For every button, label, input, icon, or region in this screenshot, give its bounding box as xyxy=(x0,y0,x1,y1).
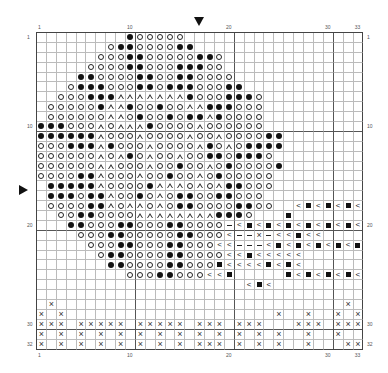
grid-cell xyxy=(314,73,324,83)
grid-cell xyxy=(274,73,284,83)
grid-cell xyxy=(264,211,274,221)
grid-cell xyxy=(116,251,126,261)
filled-circle-icon xyxy=(126,102,135,111)
open-circle-icon xyxy=(166,73,175,82)
grid-cell xyxy=(156,152,166,162)
open-circle-icon xyxy=(116,82,125,91)
grid-cell xyxy=(47,122,57,132)
grid-cell xyxy=(146,290,156,300)
grid-cell xyxy=(86,330,96,340)
filled-circle-icon xyxy=(116,43,125,52)
filled-square-icon xyxy=(344,201,353,210)
grid-cell xyxy=(96,211,106,221)
grid-cell xyxy=(146,152,156,162)
open-circle-icon xyxy=(156,43,165,52)
filled-circle-icon xyxy=(185,112,194,121)
grid-cell xyxy=(37,132,47,142)
grid-cell xyxy=(264,43,274,53)
open-circle-icon xyxy=(245,171,254,180)
open-circle-icon xyxy=(235,102,244,111)
open-circle-icon xyxy=(205,201,214,210)
grid-cell xyxy=(77,280,87,290)
grid-cell xyxy=(225,171,235,181)
open-circle-icon xyxy=(156,53,165,62)
open-triangle-icon xyxy=(96,122,105,131)
grid-cell xyxy=(126,142,136,152)
open-circle-icon xyxy=(225,122,234,131)
open-triangle-icon xyxy=(136,122,145,131)
open-circle-icon xyxy=(116,162,125,171)
grid-cell xyxy=(304,181,314,191)
grid-cell xyxy=(175,221,185,231)
open-circle-icon xyxy=(126,82,135,91)
cross-icon xyxy=(344,340,353,349)
grid-cell xyxy=(264,270,274,280)
open-circle-icon xyxy=(146,251,155,260)
grid-cell xyxy=(57,191,67,201)
open-triangle-icon xyxy=(156,92,165,101)
filled-square-icon xyxy=(255,280,264,289)
grid-cell xyxy=(67,340,77,350)
row-label-left: 30 xyxy=(27,321,33,327)
grid-cell xyxy=(156,340,166,350)
cross-icon xyxy=(354,320,363,329)
filled-circle-icon xyxy=(77,171,86,180)
grid-cell xyxy=(86,221,96,231)
filled-circle-icon xyxy=(67,132,76,141)
grid-cell xyxy=(304,142,314,152)
grid-cell xyxy=(77,300,87,310)
open-circle-icon xyxy=(215,63,224,72)
filled-circle-icon xyxy=(185,201,194,210)
grid-cell xyxy=(324,162,334,172)
less-than-icon xyxy=(334,270,343,279)
grid-cell xyxy=(166,63,176,73)
open-circle-icon xyxy=(245,102,254,111)
open-circle-icon xyxy=(166,122,175,131)
less-than-icon xyxy=(235,251,244,260)
grid-cell xyxy=(205,181,215,191)
open-circle-icon xyxy=(116,191,125,200)
grid-cell xyxy=(77,63,87,73)
grid-cell xyxy=(156,73,166,83)
grid-cell xyxy=(166,270,176,280)
grid-cell xyxy=(37,92,47,102)
open-triangle-icon xyxy=(205,162,214,171)
cross-icon xyxy=(175,320,184,329)
grid-cell xyxy=(344,82,354,92)
grid-cell xyxy=(185,112,195,122)
grid-cell xyxy=(185,201,195,211)
grid-cell xyxy=(116,102,126,112)
open-triangle-icon xyxy=(96,181,105,190)
grid-cell xyxy=(294,112,304,122)
grid-cell xyxy=(205,231,215,241)
filled-square-icon xyxy=(245,221,254,230)
open-triangle-icon xyxy=(156,211,165,220)
grid-cell xyxy=(96,162,106,172)
grid-cell xyxy=(344,73,354,83)
grid-cell xyxy=(116,201,126,211)
grid-cell xyxy=(205,280,215,290)
grid-cell xyxy=(274,310,284,320)
grid-cell xyxy=(264,82,274,92)
less-than-icon xyxy=(304,231,313,240)
grid-cell xyxy=(324,112,334,122)
open-circle-icon xyxy=(57,211,66,220)
grid-cell xyxy=(334,290,344,300)
grid-cell xyxy=(284,122,294,132)
grid-cell xyxy=(235,92,245,102)
grid-cell xyxy=(86,33,96,43)
open-circle-icon xyxy=(166,231,175,240)
grid-cell xyxy=(116,260,126,270)
grid-cell xyxy=(146,102,156,112)
grid-cell xyxy=(354,340,364,350)
grid-cell xyxy=(185,162,195,172)
grid-cell xyxy=(245,231,255,241)
open-circle-icon xyxy=(185,260,194,269)
grid-cell xyxy=(195,251,205,261)
grid-cell xyxy=(67,53,77,63)
less-than-icon xyxy=(205,270,214,279)
grid-cell xyxy=(67,43,77,53)
grid-cell xyxy=(67,201,77,211)
open-circle-icon xyxy=(264,162,273,171)
grid-cell xyxy=(116,231,126,241)
